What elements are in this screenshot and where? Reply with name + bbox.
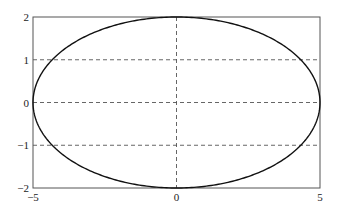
ellipse-chart: −505 −2−1012	[0, 0, 337, 211]
y-axis-ticks: −2−1012	[17, 11, 29, 194]
y-tick-label: 1	[24, 54, 30, 66]
grid-lines	[33, 17, 320, 188]
y-tick-label: −2	[17, 182, 29, 194]
y-tick-label: 2	[24, 11, 30, 23]
x-axis-ticks: −505	[27, 191, 323, 203]
y-tick-label: −1	[17, 139, 29, 151]
x-tick-label: 5	[317, 191, 323, 203]
y-tick-label: 0	[24, 97, 30, 109]
x-tick-label: 0	[174, 191, 180, 203]
